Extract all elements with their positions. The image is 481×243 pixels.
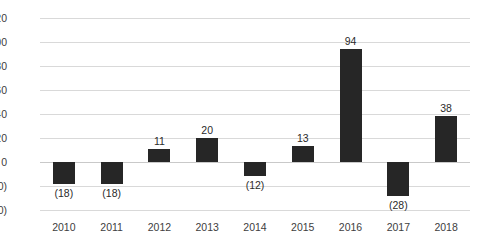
y-axis-tick-label: 100 [0, 37, 7, 48]
bar-value-label: 13 [297, 133, 309, 144]
y-axis-tick-label: 80 [0, 61, 7, 72]
bar-column[interactable]: 132015 [279, 18, 327, 210]
y-axis-tick-label: 60 [0, 85, 7, 96]
y-axis-tick-label: (40) [0, 205, 7, 216]
bar-column[interactable]: 112012 [136, 18, 184, 210]
bar[interactable] [244, 162, 266, 176]
bar[interactable] [340, 49, 362, 162]
bar-value-label: (12) [246, 180, 265, 191]
y-axis-tick-label: 40 [0, 109, 7, 120]
bar-column[interactable]: 382018 [422, 18, 470, 210]
bar-column[interactable]: (28)2017 [374, 18, 422, 210]
bar-value-label: (28) [389, 200, 408, 211]
bar-value-label: (18) [102, 188, 121, 199]
y-axis-tick-label: 120 [0, 13, 7, 24]
x-axis-tick-label: 2012 [148, 222, 171, 233]
x-axis-tick-label: 2016 [339, 222, 362, 233]
bar-value-label: (18) [55, 188, 74, 199]
plot-area: (18)2010(18)2011112012202013(12)20141320… [40, 18, 470, 210]
bar-value-label: 94 [345, 36, 357, 47]
bar[interactable] [148, 149, 170, 162]
bar-value-label: 38 [440, 103, 452, 114]
bar-value-label: 11 [154, 136, 165, 147]
y-axis-tick-label: 20 [0, 133, 7, 144]
bar[interactable] [387, 162, 409, 196]
bar-value-label: 20 [201, 125, 213, 136]
bar-column[interactable]: (18)2011 [88, 18, 136, 210]
x-axis-tick-label: 2010 [52, 222, 75, 233]
y-axis-tick-label: (20) [0, 181, 7, 192]
x-axis-tick-label: 2014 [243, 222, 266, 233]
bar[interactable] [435, 116, 457, 162]
x-axis-tick-label: 2013 [196, 222, 219, 233]
x-axis-tick-label: 2015 [291, 222, 314, 233]
bar[interactable] [101, 162, 123, 184]
bar-column[interactable]: (12)2014 [231, 18, 279, 210]
x-axis-tick-label: 2011 [100, 222, 123, 233]
y-axis-tick-label: 0 [0, 157, 7, 168]
bar[interactable] [292, 146, 314, 162]
bar-column[interactable]: 942016 [327, 18, 375, 210]
bar[interactable] [53, 162, 75, 184]
bar-column[interactable]: (18)2010 [40, 18, 88, 210]
bar-chart: 120100806040200(20)(40) (18)2010(18)2011… [0, 0, 481, 243]
bar-column[interactable]: 202013 [183, 18, 231, 210]
bar[interactable] [196, 138, 218, 162]
x-axis-tick-label: 2018 [434, 222, 457, 233]
x-axis-tick-label: 2017 [387, 222, 410, 233]
